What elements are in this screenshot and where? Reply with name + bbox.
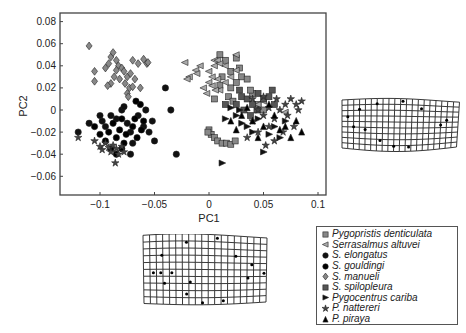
landmark <box>159 271 162 274</box>
data-point <box>140 118 146 124</box>
data-point <box>255 116 262 122</box>
data-point <box>112 159 119 166</box>
data-point <box>168 107 174 113</box>
data-point <box>211 96 217 102</box>
data-point <box>130 56 136 64</box>
y-tick-label: −0.06 <box>31 171 57 182</box>
legend-item: S. spilopleura <box>321 282 453 293</box>
x-tick-label: 0 <box>206 199 212 210</box>
data-point <box>233 126 239 133</box>
star-marker-icon <box>321 304 330 313</box>
landmark <box>160 254 163 257</box>
data-point <box>269 87 275 93</box>
data-point <box>200 85 207 91</box>
landmark <box>246 276 249 279</box>
data-point <box>237 87 243 93</box>
landmark <box>152 271 155 274</box>
data-point <box>288 134 294 141</box>
data-point <box>282 101 289 108</box>
landmark <box>234 255 237 258</box>
data-point <box>86 42 92 50</box>
data-point <box>181 59 188 65</box>
x-tick-label: 0.1 <box>311 199 325 210</box>
square-marker-icon <box>321 230 330 239</box>
data-point <box>293 117 299 124</box>
y-tick-label: −0.02 <box>31 127 57 138</box>
landmark <box>163 282 166 285</box>
data-point <box>222 57 228 63</box>
y-tick-label: 0.02 <box>37 82 57 93</box>
data-point <box>250 101 256 107</box>
data-point <box>205 129 211 135</box>
data-point <box>97 131 103 137</box>
landmark <box>378 139 381 142</box>
data-point <box>130 140 136 146</box>
data-point <box>295 106 302 113</box>
landmark <box>216 237 219 240</box>
data-point <box>261 123 267 130</box>
data-points <box>75 42 306 166</box>
data-point <box>121 104 127 110</box>
landmark <box>189 281 192 284</box>
data-point <box>287 95 295 102</box>
square-marker-icon <box>321 283 330 292</box>
data-point <box>203 90 210 96</box>
data-point <box>222 101 228 107</box>
legend-item: Pygopristis denticulata <box>321 229 453 240</box>
landmark <box>222 299 225 302</box>
landmark <box>346 115 349 118</box>
data-point <box>299 129 305 136</box>
data-point <box>102 123 108 129</box>
data-point <box>106 129 112 135</box>
diamond-marker-icon <box>321 272 330 281</box>
triangle-right-marker-icon <box>321 293 330 302</box>
landmark <box>407 146 410 149</box>
data-point <box>143 107 149 113</box>
data-point <box>135 60 141 68</box>
data-point <box>273 95 280 102</box>
legend-label: Pygocentrus cariba <box>332 293 418 303</box>
data-point <box>271 124 278 130</box>
landmark <box>185 241 188 244</box>
legend-label: Pygopristis denticulata <box>332 229 432 239</box>
legend-label: P. nattereri <box>332 303 380 313</box>
data-point <box>151 138 157 144</box>
legend-label: S. elongatus <box>332 250 388 260</box>
data-point <box>209 74 216 80</box>
data-point <box>137 84 143 92</box>
data-point <box>239 94 245 100</box>
data-point <box>262 142 269 149</box>
data-point <box>227 74 234 80</box>
data-point <box>130 123 136 129</box>
data-point <box>132 75 138 83</box>
landmark <box>201 301 204 304</box>
deformation-grid-positive-pc1 <box>338 96 462 156</box>
data-point <box>75 134 82 141</box>
data-point <box>271 112 277 119</box>
landmark <box>402 100 405 103</box>
data-point <box>92 77 98 85</box>
data-point <box>91 123 97 129</box>
legend-label: S. manueli <box>332 272 379 282</box>
data-point <box>217 52 223 58</box>
y-tick-label: 0.08 <box>37 16 57 27</box>
landmark <box>376 102 379 105</box>
x-tick-label: −0.05 <box>142 199 168 210</box>
data-point <box>266 101 272 108</box>
data-point <box>205 68 212 74</box>
data-point <box>277 126 283 133</box>
data-point <box>116 127 122 133</box>
data-point <box>244 124 251 130</box>
data-point <box>99 118 105 124</box>
data-point <box>266 131 273 137</box>
series-pygocentrus-cariba <box>219 105 289 166</box>
data-point <box>91 137 99 144</box>
legend-item: P. piraya <box>321 314 453 325</box>
data-point <box>149 118 155 124</box>
landmark <box>262 272 265 275</box>
data-point <box>173 151 179 157</box>
series-s-manueli <box>86 42 151 101</box>
legend-label: S. spilopleura <box>332 282 393 292</box>
data-point <box>239 74 245 80</box>
landmark <box>170 271 173 274</box>
